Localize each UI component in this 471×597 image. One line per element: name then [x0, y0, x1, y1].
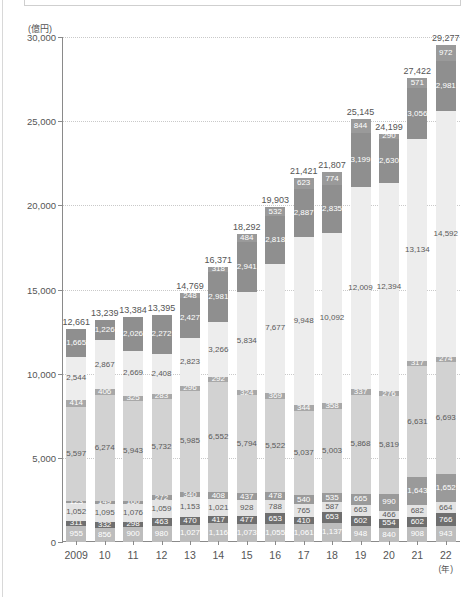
- bar-segment[interactable]: 5,943: [123, 401, 143, 501]
- bar-segment[interactable]: 5,732: [152, 399, 172, 495]
- bar-segment[interactable]: 318: [208, 267, 228, 272]
- bar-segment[interactable]: 1,643: [407, 477, 427, 505]
- bar-segment[interactable]: 414: [66, 400, 86, 407]
- bar-segment[interactable]: 2,669: [123, 351, 143, 396]
- bar-segment[interactable]: 948: [351, 526, 371, 542]
- bar-segment[interactable]: 470: [180, 517, 200, 525]
- bar-segment[interactable]: 2,818: [265, 216, 285, 263]
- bar-segment[interactable]: 478: [265, 492, 285, 500]
- bar-segment[interactable]: 160: [123, 501, 143, 504]
- bar-column[interactable]: 8563321,0951496,2744062,8671,22613,239: [95, 320, 115, 542]
- bar-segment[interactable]: 12,394: [379, 183, 399, 392]
- bar-segment[interactable]: 5,003: [322, 409, 342, 493]
- bar-segment[interactable]: 272: [152, 495, 172, 500]
- bar-segment[interactable]: 12,009: [351, 187, 371, 389]
- bar-segment[interactable]: 344: [294, 405, 314, 411]
- bar-segment[interactable]: 340: [180, 492, 200, 498]
- bar-segment[interactable]: 248: [180, 293, 200, 297]
- bar-segment[interactable]: 1,137: [322, 523, 342, 542]
- bar-segment[interactable]: 765: [294, 504, 314, 517]
- bar-segment[interactable]: 2,026: [123, 317, 143, 351]
- bar-column[interactable]: 9804631,0592725,7322832,4082,27213,395: [152, 315, 172, 542]
- bar-segment[interactable]: 14,592: [436, 111, 456, 357]
- bar-segment[interactable]: 766: [436, 513, 456, 526]
- bar-segment[interactable]: 1,665: [66, 329, 86, 357]
- bar-segment[interactable]: 5,985: [180, 391, 200, 492]
- bar-segment[interactable]: 296: [180, 386, 200, 391]
- bar-segment[interactable]: 2,981: [208, 272, 228, 322]
- bar-segment[interactable]: 900: [123, 527, 143, 542]
- bar-segment[interactable]: 5,037: [294, 411, 314, 496]
- bar-segment[interactable]: 276: [379, 391, 399, 396]
- bar-segment[interactable]: 990: [379, 494, 399, 511]
- bar-column[interactable]: 1,0614107655405,0373449,9482,88762321,42…: [294, 178, 314, 542]
- bar-segment[interactable]: 437: [237, 493, 257, 500]
- bar-segment[interactable]: 283: [152, 394, 172, 399]
- bar-segment[interactable]: 1,061: [294, 524, 314, 542]
- bar-segment[interactable]: 337: [351, 389, 371, 395]
- bar-segment[interactable]: 1,055: [265, 524, 285, 542]
- bar-segment[interactable]: 653: [322, 512, 342, 523]
- bar-segment[interactable]: 1,226: [95, 320, 115, 341]
- bar-segment[interactable]: 1,073: [237, 524, 257, 542]
- bar-segment[interactable]: 1,153: [180, 497, 200, 516]
- bar-segment[interactable]: 9,948: [294, 237, 314, 404]
- bar-segment[interactable]: 774: [322, 172, 342, 185]
- bar-segment[interactable]: 844: [351, 119, 371, 133]
- bar-segment[interactable]: 623: [294, 178, 314, 188]
- bar-segment[interactable]: 1,021: [208, 499, 228, 516]
- bar-segment[interactable]: 1,652: [436, 474, 456, 502]
- bar-segment[interactable]: 943: [436, 526, 456, 542]
- bar-column[interactable]: 9002981,0761605,9433252,6692,02613,384: [123, 317, 143, 542]
- bar-segment[interactable]: 2,835: [322, 185, 342, 233]
- bar-column[interactable]: 8405544669905,81927612,3942,63029024,199: [379, 134, 399, 542]
- bar-segment[interactable]: 369: [265, 393, 285, 399]
- bar-segment[interactable]: 980: [152, 526, 172, 542]
- bar-column[interactable]: 1,1164171,0214086,5522923,2662,98131816,…: [208, 267, 228, 543]
- bar-segment[interactable]: 3,056: [407, 88, 427, 139]
- bar-column[interactable]: 1,0274701,1533405,9852962,8232,42724814,…: [180, 293, 200, 542]
- bar-segment[interactable]: 298: [123, 522, 143, 527]
- bar-segment[interactable]: 532: [265, 207, 285, 216]
- bar-segment[interactable]: 311: [66, 521, 86, 526]
- bar-segment[interactable]: 602: [351, 516, 371, 526]
- bar-segment[interactable]: 554: [379, 519, 399, 528]
- bar-segment[interactable]: 325: [123, 396, 143, 401]
- bar-column[interactable]: 9086026821,6436,63131713,1343,05657127,4…: [407, 78, 427, 542]
- bar-segment[interactable]: 682: [407, 505, 427, 516]
- bar-segment[interactable]: 6,274: [95, 395, 115, 501]
- bar-segment[interactable]: 1,027: [180, 525, 200, 542]
- bar-column[interactable]: 1,0556537884785,5223697,6772,81853219,90…: [265, 207, 285, 542]
- bar-segment[interactable]: 535: [322, 493, 342, 502]
- bar-segment[interactable]: 332: [95, 522, 115, 528]
- bar-segment[interactable]: 2,272: [152, 315, 172, 353]
- bar-segment[interactable]: 840: [379, 528, 399, 542]
- bar-segment[interactable]: 3,199: [351, 133, 371, 187]
- bar-segment[interactable]: 466: [379, 511, 399, 519]
- bar-segment[interactable]: 540: [294, 495, 314, 504]
- bar-segment[interactable]: 664: [436, 502, 456, 513]
- bar-segment[interactable]: 10,092: [322, 233, 342, 403]
- bar-segment[interactable]: 13,134: [407, 139, 427, 360]
- bar-segment[interactable]: 2,630: [379, 139, 399, 183]
- bar-segment[interactable]: 587: [322, 502, 342, 512]
- bar-segment[interactable]: 788: [265, 500, 285, 513]
- bar-segment[interactable]: 972: [436, 45, 456, 61]
- bar-column[interactable]: 9486026636655,86833712,0093,19984425,145: [351, 119, 371, 542]
- bar-segment[interactable]: 292: [208, 377, 228, 382]
- bar-segment[interactable]: 602: [407, 517, 427, 527]
- bar-segment[interactable]: 417: [208, 516, 228, 523]
- bar-segment[interactable]: 5,834: [237, 292, 257, 390]
- bar-segment[interactable]: 484: [237, 234, 257, 242]
- bar-segment[interactable]: 5,597: [66, 407, 86, 501]
- bar-segment[interactable]: 5,794: [237, 395, 257, 493]
- bar-segment[interactable]: 653: [265, 513, 285, 524]
- bar-segment[interactable]: 1,116: [208, 523, 228, 542]
- bar-segment[interactable]: 1,076: [123, 504, 143, 522]
- bar-segment[interactable]: 955: [66, 526, 86, 542]
- bar-segment[interactable]: 317: [407, 361, 427, 366]
- bar-segment[interactable]: 406: [95, 389, 115, 396]
- bar-segment[interactable]: 2,408: [152, 354, 172, 395]
- bar-segment[interactable]: 928: [237, 500, 257, 516]
- bar-segment[interactable]: 290: [379, 134, 399, 139]
